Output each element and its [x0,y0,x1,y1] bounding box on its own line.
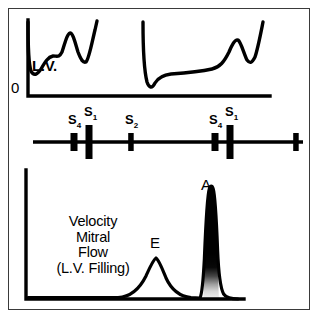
sound-label-s4-first-letter: S [68,112,77,127]
phono-mark-s4-first [71,133,78,151]
sound-label-s4-first: S4 [68,113,81,130]
phono-mark-s2 [128,133,134,151]
sound-label-s4-first-subscript: 4 [77,121,81,130]
sound-label-s4-second-letter: S [209,112,218,127]
phono-mark-s4-second [212,133,219,151]
caption-line-mitral: Mitral [38,230,148,246]
sound-label-s4-second: S4 [209,113,222,130]
phono-mark-final [293,133,299,151]
lv-pressure-trace-beat-2 [143,22,263,87]
pressure-zero-label: 0 [11,80,19,95]
figure-root: L.V. 0 S4 S1 S2 S4 S1 Velocity Mitral Fl… [0,0,320,320]
sound-label-s1-second: S1 [225,105,238,122]
sound-label-s2: S2 [125,113,138,130]
phonocardiogram-panel [33,125,303,159]
mitral-flow-caption: Velocity Mitral Flow (L.V. Filling) [38,214,148,276]
phono-mark-s1-second [227,125,234,159]
sound-label-s4-second-subscript: 4 [218,121,222,130]
phono-mark-s1-first [86,125,93,159]
sound-label-s1-second-letter: S [225,104,234,119]
sound-label-s2-subscript: 2 [134,121,138,130]
sound-label-s2-letter: S [125,112,134,127]
a-wave-label: A [201,177,211,192]
sound-label-s1-first-letter: S [84,104,93,119]
lv-pressure-panel [28,20,270,96]
sound-label-s1-second-subscript: 1 [234,113,238,122]
sound-label-s1-first-subscript: 1 [93,113,97,122]
caption-line-velocity: Velocity [38,214,148,230]
sound-label-s1-first: S1 [84,105,97,122]
caption-line-flow: Flow [38,245,148,261]
caption-line-lv-filling: (L.V. Filling) [38,261,148,277]
e-wave-label: E [150,235,160,250]
lv-pressure-label: L.V. [32,58,57,73]
